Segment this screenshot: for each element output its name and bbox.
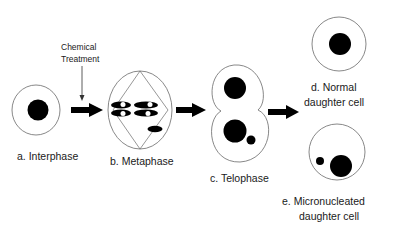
micronucleated-label-line2: daughter cell	[299, 210, 359, 222]
normal-label-line1: d. Normal	[311, 81, 357, 93]
lagging-chromosome	[148, 126, 163, 133]
telophase-label: c. Telophase	[210, 172, 269, 184]
telophase-nucleus-bottom	[224, 120, 247, 143]
treatment-label-line2: Treatment	[61, 54, 100, 64]
arrow-icon-c-to-daughters	[268, 105, 299, 119]
normal-label-line2: daughter cell	[304, 96, 364, 108]
micronucleated-cell-main-nucleus	[330, 155, 352, 177]
micronucleus	[316, 157, 324, 165]
micronucleated-label-line1: e. Micronucleated	[282, 195, 365, 207]
normal-cell-nucleus	[329, 33, 351, 55]
normal-daughter-cell	[312, 17, 366, 71]
metaphase-cell	[108, 71, 172, 149]
interphase-cell	[12, 85, 60, 135]
treatment-label-line1: Chemical	[61, 42, 97, 52]
metaphase-label: b. Metaphase	[110, 155, 174, 167]
micronucleated-daughter-cell	[309, 124, 365, 180]
interphase-nucleus	[28, 100, 49, 121]
arrow-icon-a-to-b	[71, 103, 103, 117]
arrow-icon-b-to-c	[176, 103, 206, 117]
telophase-nucleus-top	[224, 77, 246, 99]
interphase-label: a. Interphase	[17, 150, 78, 162]
treatment-arrow-icon	[80, 66, 85, 101]
telophase-cell	[212, 65, 269, 162]
micronucleus-diagram: a. Interphase Chemical Treatment b. Meta…	[0, 0, 396, 232]
telophase-micronucleus	[247, 136, 256, 145]
